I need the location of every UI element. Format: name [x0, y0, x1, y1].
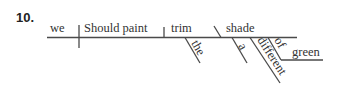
modifier-word-the: the: [188, 38, 208, 59]
object-complement-divider: [214, 26, 221, 38]
verb-word: Should paint: [84, 21, 148, 35]
sentence-diagram: 10. we Should paint trim shade the a dif…: [0, 0, 339, 93]
direct-object-word: trim: [171, 21, 192, 35]
modifier-word-a: a: [235, 41, 250, 53]
object-complement-word: shade: [226, 21, 255, 35]
object-of-preposition-word: green: [292, 45, 321, 59]
exercise-number: 10.: [16, 10, 34, 25]
subject-word: we: [50, 21, 65, 35]
